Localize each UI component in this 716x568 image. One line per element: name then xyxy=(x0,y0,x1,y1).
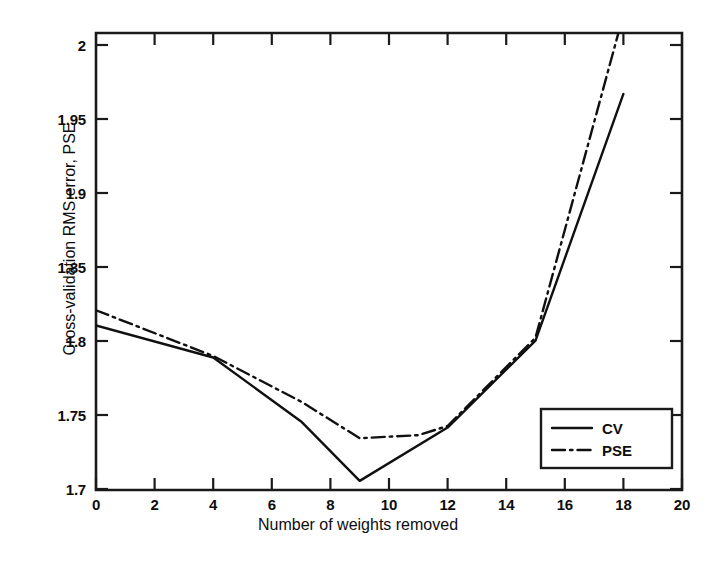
plot-canvas xyxy=(0,0,716,568)
x-tick-label: 2 xyxy=(151,496,159,513)
x-axis-title: Number of weights removed xyxy=(0,516,716,534)
x-tick-label: 8 xyxy=(326,496,334,513)
y-axis-title: Cross-validation RMS error, PSE xyxy=(61,9,79,469)
legend-label-cv: CV xyxy=(602,420,623,437)
legend-box xyxy=(541,409,672,468)
x-tick-label: 14 xyxy=(498,496,514,513)
x-tick-label: 20 xyxy=(674,496,690,513)
series-line-pse xyxy=(96,0,638,438)
x-tick-label: 16 xyxy=(557,496,573,513)
x-tick-label: 12 xyxy=(439,496,455,513)
x-tick-label: 4 xyxy=(209,496,217,513)
x-tick-label: 18 xyxy=(615,496,631,513)
x-tick-label: 0 xyxy=(92,496,100,513)
chart-figure: 2 1.95 1.9 1.85 1.8 1.75 1.7 0 2 4 6 8 1… xyxy=(0,0,716,568)
x-tick-label: 10 xyxy=(381,496,397,513)
x-tick-label: 6 xyxy=(268,496,276,513)
legend-label-pse: PSE xyxy=(602,442,632,459)
y-tick-label: 1.7 xyxy=(28,481,86,498)
